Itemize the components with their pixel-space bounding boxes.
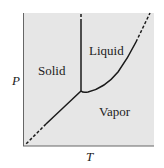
x-axis-label: T xyxy=(86,149,94,164)
phase-diagram: Solid Liquid Vapor P T xyxy=(0,0,164,168)
plot-area xyxy=(23,13,154,146)
region-label-liquid: Liquid xyxy=(89,43,124,58)
region-label-solid: Solid xyxy=(38,63,66,78)
y-axis-label: P xyxy=(11,73,20,88)
phase-diagram-svg: Solid Liquid Vapor P T xyxy=(0,0,164,168)
region-label-vapor: Vapor xyxy=(99,104,131,119)
